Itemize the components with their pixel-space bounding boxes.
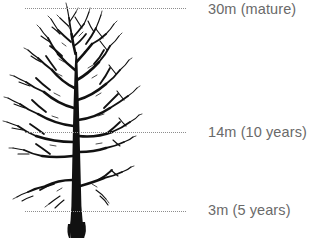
guide-line-mature (25, 8, 186, 9)
guide-label-mature: 30m (mature) (208, 2, 296, 17)
tree-growth-diagram: 30m (mature) 14m (10 years) 3m (5 years) (0, 0, 318, 240)
guide-line-ten-years (25, 132, 186, 133)
guide-label-five-years: 3m (5 years) (208, 203, 291, 218)
guide-label-ten-years: 14m (10 years) (208, 125, 307, 140)
guide-line-five-years (25, 211, 186, 212)
